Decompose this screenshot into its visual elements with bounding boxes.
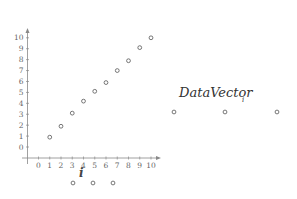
x-tick-label: 6 bbox=[104, 161, 109, 170]
scatter-chart: 012345678910012345678910 i DataVector i bbox=[0, 0, 297, 199]
y-tick-label: 9 bbox=[19, 44, 24, 53]
x-tick-label: 10 bbox=[146, 161, 156, 170]
x-tick-label: 7 bbox=[115, 161, 120, 170]
y-tick-label: 6 bbox=[19, 77, 24, 86]
y-tick-label: 0 bbox=[19, 143, 24, 152]
data-point-marker bbox=[149, 36, 153, 40]
x-axis-title: i bbox=[79, 166, 84, 180]
x-tick-label: 9 bbox=[137, 161, 142, 170]
y-tick-label: 2 bbox=[19, 121, 24, 130]
y-tick-label: 4 bbox=[19, 99, 24, 108]
stray-markers bbox=[71, 110, 279, 185]
data-point-marker bbox=[104, 81, 108, 85]
vector-subscript-label: i bbox=[242, 96, 244, 104]
stray-marker bbox=[111, 181, 115, 185]
x-tick-label: 3 bbox=[70, 161, 75, 170]
y-tick-label: 3 bbox=[19, 110, 24, 119]
x-tick-label: 2 bbox=[59, 161, 64, 170]
x-tick-label: 1 bbox=[47, 161, 52, 170]
y-tick-label: 10 bbox=[14, 33, 24, 42]
stray-marker bbox=[223, 110, 227, 114]
data-points bbox=[48, 36, 153, 139]
data-point-marker bbox=[82, 99, 86, 103]
y-tick-label: 8 bbox=[19, 55, 24, 64]
data-point-marker bbox=[48, 135, 52, 139]
stray-marker bbox=[71, 181, 75, 185]
axes bbox=[22, 28, 161, 164]
y-tick-label: 1 bbox=[19, 132, 24, 141]
y-axis-arrow-icon bbox=[26, 28, 30, 33]
data-point-marker bbox=[127, 59, 131, 63]
y-tick-label: 5 bbox=[19, 88, 24, 97]
x-tick-label: 0 bbox=[36, 161, 41, 170]
stray-marker bbox=[91, 181, 95, 185]
data-point-marker bbox=[70, 111, 74, 115]
x-axis-arrow-icon bbox=[156, 156, 161, 160]
y-tick-label: 7 bbox=[19, 66, 24, 75]
data-point-marker bbox=[93, 89, 97, 93]
stray-marker bbox=[172, 110, 176, 114]
data-point-marker bbox=[115, 69, 119, 73]
stray-marker bbox=[275, 110, 279, 114]
x-tick-label: 5 bbox=[92, 161, 97, 170]
x-tick-label: 8 bbox=[126, 161, 131, 170]
data-point-marker bbox=[59, 124, 63, 128]
data-point-marker bbox=[138, 46, 142, 50]
